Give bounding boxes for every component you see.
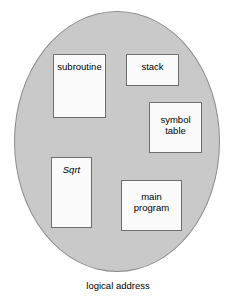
segment-symbol-table-label: symbol table <box>150 103 201 136</box>
segment-symbol-table: symbol table <box>149 102 202 153</box>
segment-stack: stack <box>126 54 179 86</box>
segment-subroutine-label: subroutine <box>54 55 105 72</box>
segment-main-program: main program <box>121 180 182 231</box>
segment-stack-label: stack <box>127 55 178 72</box>
segment-sqrt-label: Sqrt <box>52 158 91 175</box>
figure-caption: logical address <box>0 280 236 292</box>
segment-main-program-label: main program <box>122 181 181 213</box>
logical-address-space-figure: subroutine stack symbol table Sqrt main … <box>0 0 236 304</box>
segment-sqrt: Sqrt <box>51 157 92 228</box>
segment-subroutine: subroutine <box>53 54 106 118</box>
